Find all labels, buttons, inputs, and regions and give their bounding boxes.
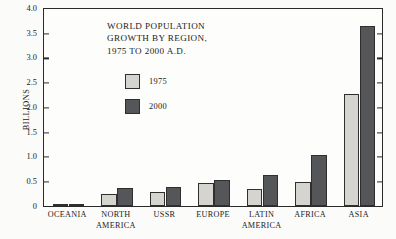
- bar-2000: [263, 175, 279, 206]
- y-tick-mark: [377, 33, 382, 34]
- y-tick-mark: [44, 107, 49, 108]
- y-tick-mark: [44, 132, 49, 133]
- y-tick-mark: [377, 58, 382, 59]
- y-tick-label: 4.0: [9, 4, 37, 13]
- y-tick-label: 2.0: [9, 102, 37, 111]
- x-tick-label: EUROPE: [189, 210, 238, 221]
- bar-group: [101, 8, 133, 206]
- bar-2000: [69, 204, 85, 206]
- x-tick-label-line: ASIA: [334, 210, 383, 221]
- y-tick-mark: [377, 157, 382, 158]
- y-tick-mark: [44, 58, 49, 59]
- y-tick-mark: [377, 181, 382, 182]
- x-tick-label: AFRICA: [286, 210, 335, 221]
- x-tick-label: LATINAMERICA: [237, 210, 286, 231]
- bar-group: [295, 8, 327, 206]
- x-tick-label: OCEANIA: [43, 210, 92, 221]
- bar-2000: [214, 180, 230, 206]
- bar-group: [344, 8, 376, 206]
- plot-area: WORLD POPULATIONGROWTH BY REGION,1975 TO…: [43, 8, 383, 207]
- x-tick-label: NORTHAMERICA: [92, 210, 141, 231]
- bar-2000: [166, 187, 182, 206]
- bar-group: [247, 8, 279, 206]
- x-tick-label: USSR: [140, 210, 189, 221]
- y-tick-mark: [44, 83, 49, 84]
- x-tick-label-line: AFRICA: [286, 210, 335, 221]
- y-tick-label: 3.5: [9, 28, 37, 37]
- x-tick-label-line: AMERICA: [92, 221, 141, 232]
- y-tick-mark: [44, 33, 49, 34]
- x-tick-label-line: NORTH: [92, 210, 141, 221]
- bar-1975: [150, 192, 166, 206]
- bar-1975: [247, 189, 263, 206]
- y-tick-label: 3.0: [9, 53, 37, 62]
- bar-1975: [198, 183, 214, 206]
- y-tick-label: 1.5: [9, 127, 37, 136]
- x-tick-label-line: OCEANIA: [43, 210, 92, 221]
- bar-group: [150, 8, 182, 206]
- y-tick-label: 0: [9, 201, 37, 210]
- x-tick-label-line: AMERICA: [237, 221, 286, 232]
- y-tick-mark: [377, 132, 382, 133]
- bar-1975: [295, 182, 311, 206]
- y-tick-label: 0.5: [9, 176, 37, 185]
- x-tick-label-line: USSR: [140, 210, 189, 221]
- x-tick-label-line: EUROPE: [189, 210, 238, 221]
- y-tick-mark: [44, 181, 49, 182]
- bar-1975: [101, 194, 117, 206]
- bar-1975: [53, 204, 69, 206]
- y-tick-label: 1.0: [9, 152, 37, 161]
- bar-2000: [117, 188, 133, 206]
- bar-2000: [311, 155, 327, 206]
- bar-group: [53, 8, 85, 206]
- bar-2000: [360, 26, 376, 206]
- y-tick-mark: [377, 107, 382, 108]
- bar-group: [198, 8, 230, 206]
- y-tick-label: 2.5: [9, 78, 37, 87]
- bar-1975: [344, 94, 360, 206]
- chart-figure: BILLIONS 4.03.53.02.52.01.51.00.50 WORLD…: [0, 0, 396, 239]
- x-tick-label: ASIA: [334, 210, 383, 221]
- x-tick-label-line: LATIN: [237, 210, 286, 221]
- y-tick-mark: [44, 157, 49, 158]
- y-tick-mark: [377, 83, 382, 84]
